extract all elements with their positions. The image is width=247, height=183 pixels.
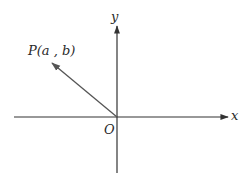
point-p-label: P(a , b)	[28, 44, 75, 57]
origin-label: O	[104, 123, 115, 136]
x-axis-label: x	[231, 109, 238, 122]
y-axis-label: y	[111, 10, 118, 23]
vector-op	[52, 63, 117, 117]
coordinate-plane	[0, 0, 247, 183]
